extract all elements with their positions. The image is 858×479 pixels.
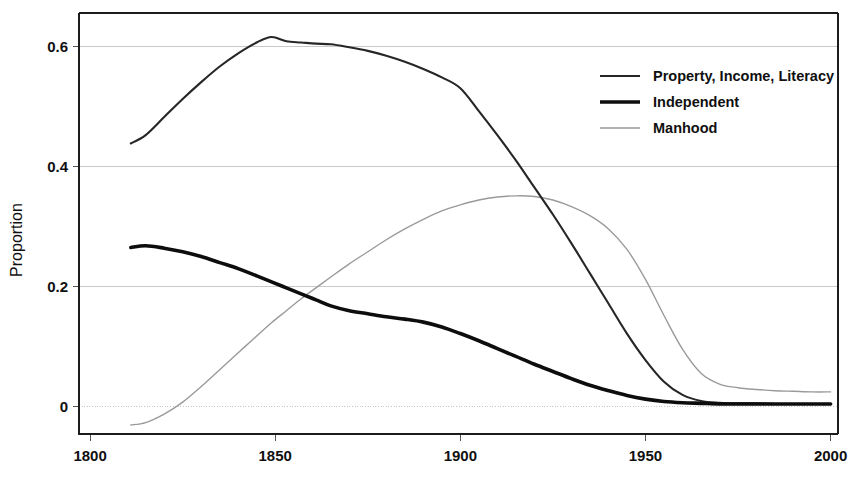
chart-container: 00.20.40.6 18001850190019502000 Proporti…: [0, 0, 858, 479]
y-tick-label: 0.2: [47, 278, 68, 295]
y-tick-label: 0.6: [47, 38, 68, 55]
legend: Property, Income, LiteracyIndependentMan…: [600, 68, 834, 136]
x-tick-label: 1800: [73, 447, 106, 464]
x-tick-label: 2000: [814, 447, 847, 464]
legend-label: Independent: [653, 94, 739, 110]
y-axis-ticks: 00.20.40.6: [47, 38, 79, 416]
y-axis-title: Proportion: [8, 203, 25, 277]
x-tick-label: 1950: [629, 447, 662, 464]
legend-label: Manhood: [653, 120, 717, 136]
x-tick-label: 1850: [259, 447, 292, 464]
series-line-property-income-literacy: [131, 37, 831, 404]
y-tick-label: 0: [60, 398, 68, 415]
series-line-independent: [131, 246, 831, 404]
series-line-manhood: [131, 196, 831, 425]
y-tick-label: 0.4: [47, 158, 69, 175]
y-axis-title-label: Proportion: [8, 203, 25, 277]
line-chart: 00.20.40.6 18001850190019502000 Proporti…: [0, 0, 858, 479]
x-axis-ticks: 18001850190019502000: [73, 434, 847, 464]
legend-label: Property, Income, Literacy: [653, 68, 834, 84]
x-tick-label: 1900: [444, 447, 477, 464]
